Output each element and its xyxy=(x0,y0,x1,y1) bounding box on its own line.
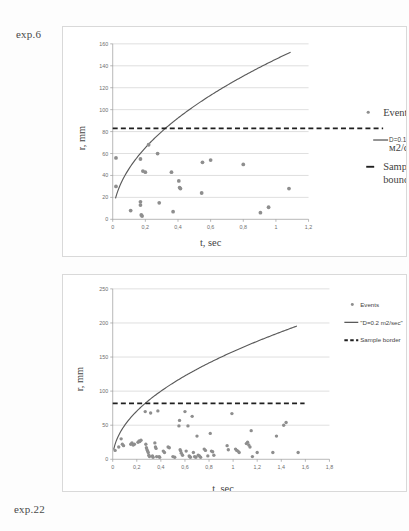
data-point xyxy=(206,454,209,457)
data-point xyxy=(212,454,215,457)
data-point xyxy=(230,412,233,415)
data-point xyxy=(201,160,205,164)
data-point xyxy=(184,449,187,452)
y-tick-label-1: 20 xyxy=(102,194,108,200)
data-point xyxy=(296,451,299,454)
data-point xyxy=(237,451,240,454)
x-tick-label-2: 0,4 xyxy=(174,224,181,230)
data-point xyxy=(133,443,136,446)
legend-item-1: Events xyxy=(351,301,379,308)
data-point xyxy=(114,185,118,189)
data-point xyxy=(139,157,143,161)
data-point xyxy=(195,434,198,437)
data-point xyxy=(183,410,186,413)
x-tick-label-1: 0,2 xyxy=(133,464,140,470)
data-point xyxy=(209,432,212,435)
chart-exp6: 02040608010012014016000,20,40,60,811,2t,… xyxy=(62,26,407,257)
data-point xyxy=(157,201,161,205)
data-point xyxy=(144,443,147,446)
y-tick-label-8: 160 xyxy=(99,41,108,47)
x-tick-label-9: 1,8 xyxy=(326,464,333,470)
data-point xyxy=(256,451,259,454)
legend-label-3-line2: boundary xyxy=(383,174,406,185)
legend-label-3-line1: Sample xyxy=(383,161,406,172)
data-point xyxy=(267,205,271,209)
x-tick-label-8: 1,6 xyxy=(302,464,309,470)
data-point xyxy=(248,445,251,448)
x-tick-label-5: 1 xyxy=(232,464,235,470)
data-point xyxy=(140,214,144,218)
data-point xyxy=(271,451,274,454)
chart-exp22-canvas: 05010015020025000,20,40,60,811,21,41,61,… xyxy=(63,275,406,491)
data-point xyxy=(227,448,230,451)
data-point xyxy=(114,156,118,160)
data-point xyxy=(158,456,161,459)
data-point xyxy=(177,424,180,427)
data-point xyxy=(163,451,166,454)
data-point xyxy=(178,419,181,422)
data-point xyxy=(251,455,254,458)
legend-label-1: Events xyxy=(383,107,406,118)
data-point xyxy=(119,437,122,440)
chart-exp6-canvas: 02040608010012014016000,20,40,60,811,2t,… xyxy=(63,27,406,256)
x-axis-title: t, sec xyxy=(200,237,222,248)
legend-label-2: "D=0.2 m2/sec" xyxy=(360,319,402,326)
y-tick-label-0: 0 xyxy=(105,216,108,222)
data-point xyxy=(143,170,147,174)
legend-label-3: Sample border xyxy=(360,336,400,343)
x-axis-title: t, sec xyxy=(212,483,234,491)
data-point xyxy=(200,191,204,195)
y-tick-label-3: 150 xyxy=(99,354,108,360)
data-point xyxy=(204,449,207,452)
data-point xyxy=(144,410,147,413)
data-point xyxy=(211,450,214,453)
y-tick-label-6: 120 xyxy=(99,85,108,91)
diffusion-curve xyxy=(114,326,297,450)
y-tick-label-5: 250 xyxy=(99,286,108,292)
x-tick-label-3: 0,6 xyxy=(181,464,188,470)
data-point xyxy=(249,429,252,432)
y-tick-label-5: 100 xyxy=(99,107,108,113)
x-tick-label-2: 0,4 xyxy=(157,464,164,470)
x-tick-label-5: 1 xyxy=(274,224,277,230)
figure-page: exp.6 exp.22 02040608010012014016000,20,… xyxy=(0,0,409,531)
data-point xyxy=(139,200,143,204)
data-point xyxy=(179,187,183,191)
data-point xyxy=(156,152,160,156)
data-point xyxy=(153,441,156,444)
y-tick-label-1: 50 xyxy=(102,422,108,428)
data-point xyxy=(186,424,189,427)
x-tick-label-1: 0,2 xyxy=(142,224,149,230)
x-tick-label-6: 1,2 xyxy=(305,224,312,230)
data-point xyxy=(171,210,175,214)
legend-item-3: Sampleboundary xyxy=(366,161,406,185)
x-tick-label-7: 1,4 xyxy=(278,464,285,470)
data-point xyxy=(192,451,195,454)
y-axis-title: r, mm xyxy=(76,126,87,150)
y-axis-title: r, mm xyxy=(74,367,85,391)
legend-item-3: Sample border xyxy=(344,336,400,343)
y-tick-label-2: 40 xyxy=(102,172,108,178)
legend-item-2: "D=0.2 m2/sec" xyxy=(344,319,402,326)
y-tick-label-4: 200 xyxy=(99,320,108,326)
y-tick-label-2: 100 xyxy=(99,388,108,394)
data-point xyxy=(170,170,174,174)
y-tick-label-3: 60 xyxy=(102,151,108,157)
data-point xyxy=(122,444,125,447)
exp-label-top: exp.6 xyxy=(16,28,41,40)
x-tick-label-4: 0,8 xyxy=(205,464,212,470)
data-point xyxy=(147,143,151,147)
exp-label-bottom: exp.22 xyxy=(14,503,45,515)
y-tick-label-7: 140 xyxy=(99,63,108,69)
data-point xyxy=(225,444,228,447)
data-point xyxy=(149,411,152,414)
data-point xyxy=(177,179,181,183)
x-tick-label-0: 0 xyxy=(111,464,114,470)
legend-item-1: Events xyxy=(367,107,406,118)
data-point xyxy=(259,211,263,215)
diffusion-curve xyxy=(115,52,290,198)
data-point xyxy=(209,158,213,162)
data-point xyxy=(181,454,184,457)
x-tick-label-4: 0,8 xyxy=(240,224,247,230)
data-point xyxy=(282,424,285,427)
